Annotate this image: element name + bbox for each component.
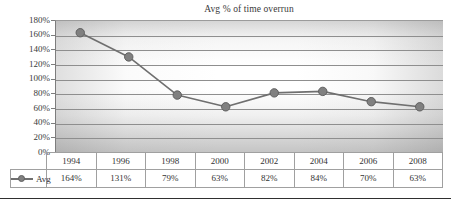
data-point-marker	[222, 103, 230, 111]
y-axis-tick-label: 20%	[4, 133, 50, 142]
data-point-marker	[173, 91, 181, 99]
y-axis-tick-label: 160%	[4, 30, 50, 39]
chart-figure: Avg % of time overrun 180%160%140%120%10…	[0, 0, 451, 201]
data-point-marker	[367, 97, 375, 105]
table-value-cell: 70%	[344, 170, 394, 188]
table-corner-cell	[11, 153, 47, 170]
series-label: Avg	[36, 174, 51, 184]
table-row: Avg 164%131%79%63%82%84%70%63%	[11, 170, 443, 188]
y-axis-tick-label: 60%	[4, 104, 50, 113]
data-point-marker	[416, 103, 424, 111]
table-header-cell: 2006	[344, 153, 394, 170]
table-value-cell: 63%	[195, 170, 245, 188]
table-value-cell: 79%	[146, 170, 196, 188]
table-value-cell: 84%	[294, 170, 344, 188]
series-avg	[56, 21, 443, 152]
y-axis-tick-label: 180%	[4, 16, 50, 25]
series-line	[80, 33, 420, 107]
data-point-marker	[125, 53, 133, 61]
table-header-cell: 1996	[96, 153, 146, 170]
table-value-cell: 63%	[393, 170, 443, 188]
data-point-marker	[270, 89, 278, 97]
y-axis-tick-label: 100%	[4, 74, 50, 83]
table-header-cell: 2008	[393, 153, 443, 170]
table-header-cell: 1998	[146, 153, 196, 170]
data-point-marker	[76, 29, 84, 37]
y-axis-tick-label: 120%	[4, 60, 50, 69]
table-header-cell: 2004	[294, 153, 344, 170]
table-header-cell: 1994	[47, 153, 97, 170]
data-point-marker	[319, 87, 327, 95]
table-value-cell: 164%	[47, 170, 97, 188]
table-value-cell: 82%	[245, 170, 295, 188]
chart-title: Avg % of time overrun	[55, 3, 443, 15]
data-table: 19941996199820002002200420062008 Avg 164…	[10, 152, 443, 188]
bottom-rule	[0, 198, 451, 199]
table-header-row: 19941996199820002002200420062008	[11, 153, 443, 170]
y-axis-tick-label: 140%	[4, 45, 50, 54]
y-axis-tick-label: 80%	[4, 89, 50, 98]
plot-area	[55, 20, 443, 152]
table-header-cell: 2000	[195, 153, 245, 170]
legend-cell: Avg	[11, 170, 47, 188]
line-circle-marker-icon	[11, 174, 33, 183]
table-value-cell: 131%	[96, 170, 146, 188]
table-header-cell: 2002	[245, 153, 295, 170]
y-axis-tick-label: 40%	[4, 118, 50, 127]
